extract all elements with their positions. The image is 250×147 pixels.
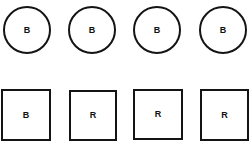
shape-label: B [24,26,31,35]
square-shape-1[interactable]: B [1,89,51,141]
shape-label: R [90,111,97,120]
shape-label: B [154,26,161,35]
shape-label: R [221,111,228,120]
circle-shape-2[interactable]: B [68,6,116,54]
square-shape-3[interactable]: R [133,89,183,140]
shape-label: B [220,26,227,35]
shapes-canvas: B B B B B R R R [0,0,250,147]
circle-shape-4[interactable]: B [199,6,247,54]
shape-label: R [155,110,162,119]
square-shape-4[interactable]: R [200,89,249,141]
shape-label: B [23,111,30,120]
circle-shape-3[interactable]: B [133,6,181,54]
square-shape-2[interactable]: R [69,90,117,141]
shape-label: B [89,26,96,35]
circle-shape-1[interactable]: B [3,6,51,54]
